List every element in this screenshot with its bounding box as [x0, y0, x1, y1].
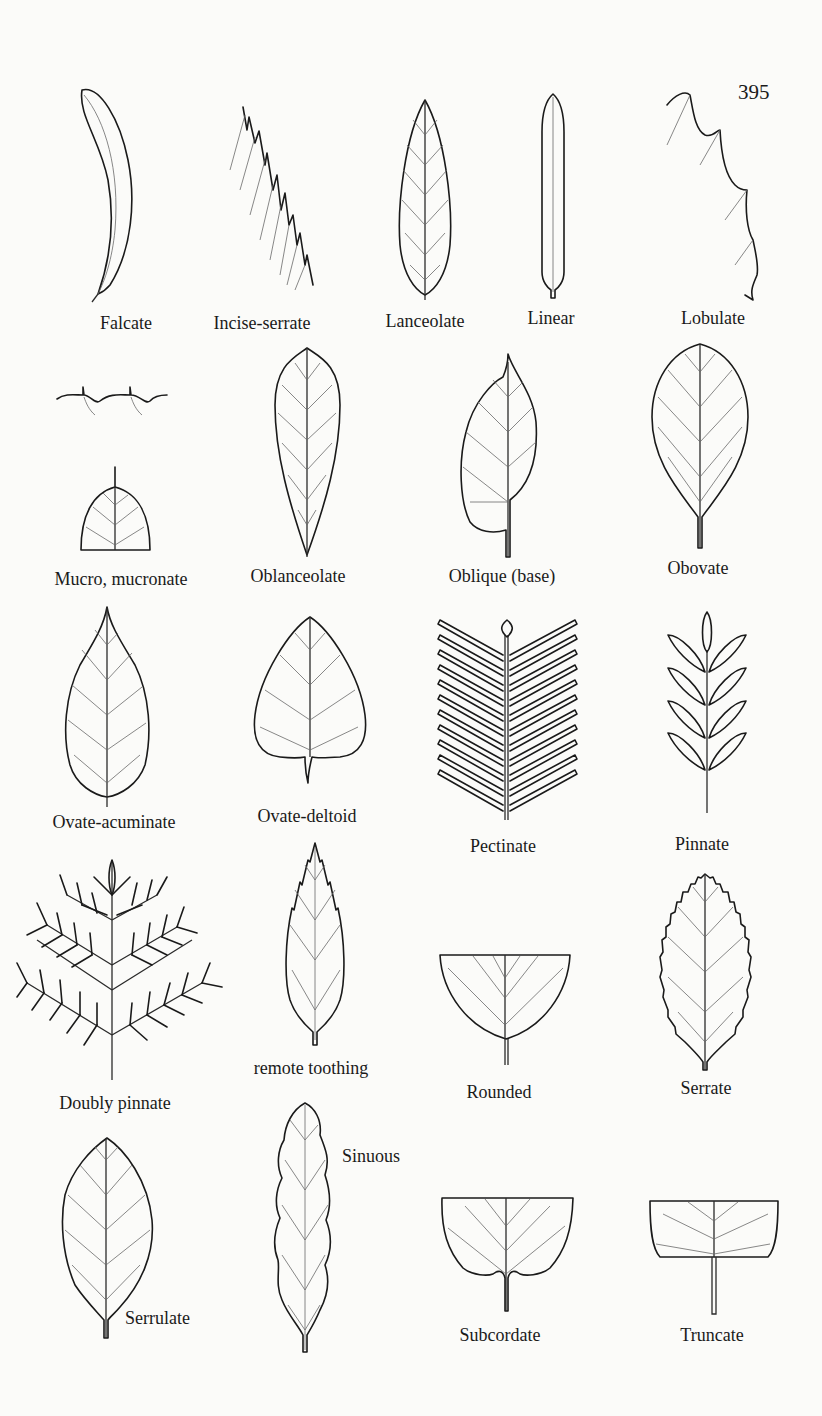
falcate-leaf-illustration — [70, 80, 160, 305]
label-serrulate: Serrulate — [125, 1308, 190, 1329]
subcordate-base-leaf-illustration — [440, 1196, 575, 1314]
pinnate-leaf-illustration — [665, 610, 750, 815]
label-incise-serrate: Incise-serrate — [214, 313, 311, 334]
label-pectinate: Pectinate — [470, 836, 536, 857]
glossary-plate: 395 Falcate Incise-serrate Lanceolate Li… — [0, 0, 822, 1416]
label-linear: Linear — [528, 308, 575, 329]
pectinate-leaf-illustration — [435, 615, 580, 825]
label-sinuous: Sinuous — [342, 1146, 400, 1167]
label-subcordate: Subcordate — [460, 1325, 541, 1346]
label-pinnate: Pinnate — [675, 834, 729, 855]
rounded-base-leaf-illustration — [438, 953, 573, 1068]
incise-serrate-leaf-illustration — [225, 105, 325, 295]
label-doubly-pinnate: Doubly pinnate — [59, 1093, 170, 1114]
oblique-base-leaf-illustration — [458, 352, 543, 562]
mucro-margin-illustration — [55, 385, 170, 425]
remote-toothing-leaf-illustration — [280, 840, 350, 1050]
serrate-leaf-illustration — [658, 872, 753, 1072]
label-falcate: Falcate — [100, 313, 152, 334]
label-mucronate: Mucro, mucronate — [55, 569, 188, 590]
label-obovate: Obovate — [668, 558, 729, 579]
linear-leaf-illustration — [538, 92, 568, 302]
truncate-base-leaf-illustration — [648, 1199, 780, 1317]
label-lanceolate: Lanceolate — [386, 311, 465, 332]
label-oblanceolate: Oblanceolate — [251, 566, 346, 587]
oblanceolate-leaf-illustration — [270, 345, 345, 560]
obovate-leaf-illustration — [650, 342, 750, 552]
label-rounded: Rounded — [467, 1082, 532, 1103]
ovate-acuminate-leaf-illustration — [60, 605, 155, 810]
doubly-pinnate-leaf-illustration — [12, 855, 227, 1085]
mucronate-leaf-illustration — [78, 465, 153, 555]
label-truncate: Truncate — [680, 1325, 743, 1346]
label-serrate: Serrate — [681, 1078, 732, 1099]
lobulate-margin-illustration — [665, 90, 765, 310]
sinuous-leaf-illustration — [270, 1100, 340, 1355]
ovate-deltoid-leaf-illustration — [250, 615, 370, 785]
label-ovate-deltoid: Ovate-deltoid — [258, 806, 357, 827]
label-oblique-base: Oblique (base) — [449, 566, 555, 587]
label-remote-toothing: remote toothing — [254, 1058, 368, 1079]
label-lobulate: Lobulate — [681, 308, 745, 329]
label-ovate-acuminate: Ovate-acuminate — [53, 812, 176, 833]
lanceolate-leaf-illustration — [395, 95, 455, 305]
